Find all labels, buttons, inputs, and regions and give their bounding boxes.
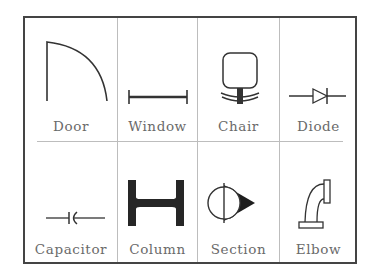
symbol-label: Capacitor [25,241,117,257]
symbol-label: Chair [198,118,279,134]
symbol-cell-column: Column [118,142,197,264]
symbol-cell-door: Door [25,18,117,141]
symbol-cell-diode: Diode [280,18,357,141]
symbol-cell-window: Window [118,18,197,141]
symbol-cell-section: Section [198,142,279,264]
symbol-cell-elbow: Elbow [280,142,357,264]
symbol-label: Column [118,241,197,257]
symbol-label: Diode [280,118,357,134]
symbol-label: Elbow [280,241,357,257]
symbol-label: Section [198,241,279,257]
symbol-cell-capacitor: Capacitor [25,142,117,264]
symbol-label: Window [118,118,197,134]
symbol-legend-frame: Door Window Chair Diode [23,16,357,264]
symbol-label: Door [25,118,117,134]
symbol-cell-chair: Chair [198,18,279,141]
